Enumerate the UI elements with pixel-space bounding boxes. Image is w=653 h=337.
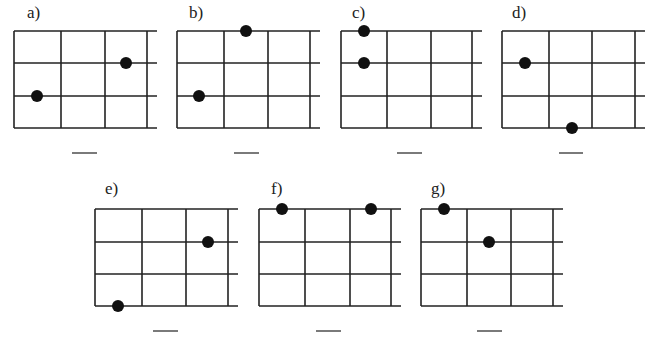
dot-marker <box>120 57 132 69</box>
panel-label-e: e) <box>105 180 118 197</box>
dot-marker <box>240 25 252 37</box>
grid-panel-a <box>14 31 157 153</box>
dot-marker <box>358 57 370 69</box>
panel-label-b: b) <box>189 4 203 21</box>
grid-panel-d <box>502 31 645 153</box>
dot-marker <box>438 203 450 215</box>
dot-marker <box>112 300 124 312</box>
panel-label-g: g) <box>431 180 445 197</box>
exercise-sheet: a) b) c) d) e) f) g) <box>0 0 653 337</box>
dot-marker <box>193 90 205 102</box>
panel-label-a: a) <box>27 4 40 21</box>
grid-diagrams <box>0 0 653 337</box>
grid-panel-b <box>177 25 320 153</box>
grid-panel-e <box>95 209 238 331</box>
grid-panel-c <box>341 25 482 153</box>
dot-marker <box>365 203 377 215</box>
grid-panel-g <box>421 203 563 331</box>
grid-panel-f <box>259 203 401 331</box>
dot-marker <box>519 57 531 69</box>
dot-marker <box>358 25 370 37</box>
dot-marker <box>31 90 43 102</box>
panel-label-f: f) <box>271 180 282 197</box>
dot-marker <box>202 236 214 248</box>
dot-marker <box>276 203 288 215</box>
panel-label-d: d) <box>512 4 526 21</box>
dot-marker <box>483 236 495 248</box>
dot-marker <box>566 122 578 134</box>
panel-label-c: c) <box>352 4 365 21</box>
